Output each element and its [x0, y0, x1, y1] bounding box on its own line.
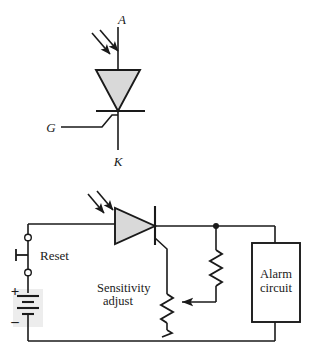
label-alarm-line1: Alarm [260, 267, 292, 281]
label-sensitivity-line2: adjust [103, 294, 133, 308]
lascr-symbol: A G K [46, 12, 145, 169]
label-alarm-line2: circuit [260, 281, 292, 295]
label-sensitivity-line1: Sensitivity [97, 281, 151, 295]
label-cathode: K [113, 154, 124, 169]
scr-triangle [96, 70, 140, 111]
circuit-lascr [88, 191, 275, 290]
circuit-scr-triangle [115, 208, 155, 244]
light-arrows-symbol [92, 30, 118, 54]
light-arrows-circuit [88, 191, 113, 213]
label-anode: A [117, 12, 126, 27]
label-battery-minus: – [10, 313, 19, 329]
label-gate: G [46, 120, 56, 135]
circuit-gate-lead [155, 238, 167, 290]
sensitivity-potentiometer [161, 290, 173, 337]
label-reset: Reset [40, 248, 69, 263]
schematic-svg: A G K Reset + – [0, 0, 315, 360]
gate-lead [61, 115, 118, 127]
reset-contact-bottom [25, 269, 32, 276]
alarm-circuit-block: Alarm circuit [252, 226, 300, 322]
figure-canvas: A G K Reset + – [0, 0, 315, 360]
load-resistor [182, 226, 222, 302]
alarm-circuit: Reset + – [10, 191, 300, 341]
label-battery-plus: + [11, 283, 20, 299]
reset-contact-top [25, 234, 32, 241]
